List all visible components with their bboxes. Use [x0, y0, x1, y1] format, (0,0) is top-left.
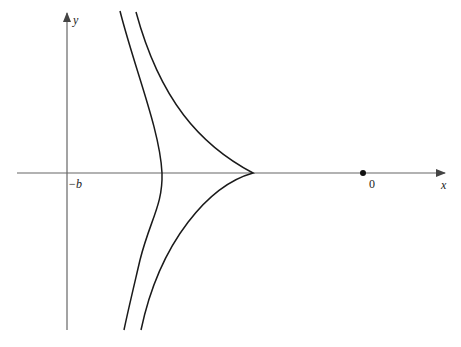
origin-label: 0 — [369, 177, 375, 191]
minus-b-label: −b — [68, 177, 82, 191]
x-axis-label: x — [440, 178, 447, 192]
cusp-curve — [136, 12, 253, 330]
diagram-canvas: y x −b 0 — [0, 0, 461, 347]
y-axis-label: y — [72, 13, 79, 27]
origin-point — [360, 170, 366, 176]
